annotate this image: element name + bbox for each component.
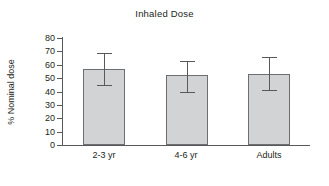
y-axis-tick-label-text: 0 [13, 141, 55, 150]
x-axis-category-label: 4-6 yr [145, 150, 227, 160]
error-bar-line [187, 61, 188, 92]
x-axis-category-label: Adults [228, 150, 310, 160]
y-axis-tick-label: 40 [10, 88, 55, 97]
error-bar-line [269, 57, 270, 90]
y-axis-tick-label-text: 10 [13, 128, 55, 137]
y-axis-tick-label-text: 20 [13, 114, 55, 123]
y-axis-tick [57, 118, 62, 119]
y-axis-tick-label: 30 [10, 101, 55, 110]
y-axis-tick-label-text: 80 [13, 34, 55, 43]
y-axis-tick [57, 65, 62, 66]
error-bar-cap-lower [262, 90, 277, 91]
y-axis-tick-label-text: 70 [13, 47, 55, 56]
x-axis-category-label: 2-3 yr [63, 150, 145, 160]
y-axis-tick [57, 145, 62, 146]
y-axis-line [62, 37, 63, 146]
error-bar-cap-lower [97, 85, 112, 86]
y-axis-tick-label-text: 30 [13, 101, 55, 110]
y-axis-tick [57, 78, 62, 79]
y-axis-tick [57, 132, 62, 133]
y-axis-tick [57, 38, 62, 39]
chart-title: Inhaled Dose [0, 8, 329, 19]
y-axis-tick-label: 80 [10, 34, 55, 43]
error-bar-cap-upper [262, 57, 277, 58]
y-axis-tick-label: 70 [10, 47, 55, 56]
error-bar-cap-upper [180, 61, 195, 62]
error-bar-line [104, 53, 105, 85]
error-bar-cap-upper [97, 53, 112, 54]
y-axis-tick [57, 51, 62, 52]
chart-figure: Inhaled Dose % Nominal dose 010203040506… [0, 0, 329, 186]
y-axis-tick-label: 0 [10, 141, 55, 150]
y-axis-tick-label: 10 [10, 128, 55, 137]
y-axis-tick-label: 60 [10, 61, 55, 70]
y-axis-tick [57, 92, 62, 93]
y-axis-tick [57, 105, 62, 106]
y-axis-tick-label-text: 40 [13, 88, 55, 97]
x-axis-line [62, 145, 310, 146]
y-axis-tick-label-text: 50 [13, 74, 55, 83]
y-axis-tick-label: 50 [10, 74, 55, 83]
error-bar-cap-lower [180, 92, 195, 93]
y-axis-tick-label: 20 [10, 114, 55, 123]
y-axis-tick-label-text: 60 [13, 61, 55, 70]
